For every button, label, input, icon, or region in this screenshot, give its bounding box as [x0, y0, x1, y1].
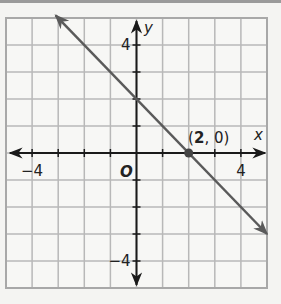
- origin-label: O: [120, 163, 133, 181]
- x-axis-label: x: [253, 126, 263, 144]
- y-tick-label: 4: [121, 36, 131, 54]
- x-tick-label: −4: [21, 162, 43, 180]
- point-label: (2, 0): [188, 129, 229, 147]
- coordinate-plane: x y O −444−4(2, 0): [0, 0, 281, 304]
- y-tick-label: −4: [108, 252, 130, 270]
- data-point: [184, 149, 193, 158]
- y-axis-label: y: [143, 19, 154, 37]
- x-tick-label: 4: [236, 162, 246, 180]
